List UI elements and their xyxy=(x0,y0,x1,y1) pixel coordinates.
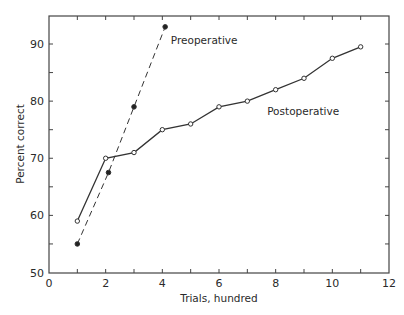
y-tick-label: 90 xyxy=(30,38,44,51)
x-tick-label: 0 xyxy=(46,277,53,290)
preoperative-line xyxy=(77,27,165,244)
x-tick-label: 10 xyxy=(325,277,339,290)
postoperative-data-point xyxy=(273,88,277,92)
x-tick-label: 12 xyxy=(382,277,396,290)
series-layer xyxy=(75,25,363,247)
postoperative-data-point xyxy=(330,56,334,60)
preoperative-data-point xyxy=(106,170,111,175)
postoperative-data-point xyxy=(75,219,79,223)
y-axis-label: Percent correct xyxy=(14,104,26,184)
postoperative-data-point xyxy=(103,156,107,160)
x-axis-label: Trials, hundred xyxy=(179,292,257,304)
axis-tick-labels: 0246810125060708090 xyxy=(30,38,396,290)
line-chart: 0246810125060708090 Trials, hundred Perc… xyxy=(0,0,404,315)
preoperative-label: Preoperative xyxy=(171,34,238,46)
postoperative-data-point xyxy=(132,150,136,154)
postoperative-data-point xyxy=(217,105,221,109)
postoperative-label: Postoperative xyxy=(267,105,339,117)
postoperative-line xyxy=(77,47,360,221)
postoperative-data-point xyxy=(188,122,192,126)
x-tick-label: 8 xyxy=(272,277,279,290)
x-tick-label: 4 xyxy=(159,277,166,290)
y-tick-label: 50 xyxy=(30,267,44,280)
postoperative-data-point xyxy=(358,45,362,49)
x-tick-label: 6 xyxy=(216,277,223,290)
preoperative-data-point xyxy=(75,242,80,247)
plot-frame xyxy=(49,16,389,273)
axis-ticks xyxy=(49,16,389,273)
preoperative-data-point xyxy=(163,25,168,30)
postoperative-data-point xyxy=(160,127,164,131)
y-tick-label: 60 xyxy=(30,209,44,222)
preoperative-data-point xyxy=(132,105,137,110)
y-tick-label: 70 xyxy=(30,152,44,165)
postoperative-data-point xyxy=(302,76,306,80)
x-tick-label: 2 xyxy=(102,277,109,290)
y-tick-label: 80 xyxy=(30,95,44,108)
series-annotations: PreoperativePostoperative xyxy=(171,34,339,117)
postoperative-data-point xyxy=(245,99,249,103)
